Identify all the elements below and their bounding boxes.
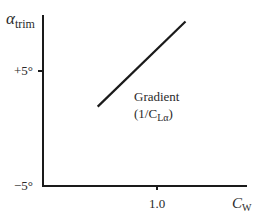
x-tick-label: 1.0 bbox=[149, 196, 165, 211]
y-axis-label: αtrim bbox=[6, 9, 36, 31]
chart-figure: +5°−5° 1.0 αtrim CW Gradient (1/CLα) bbox=[0, 0, 260, 216]
gradient-annotation: Gradient (1/CLα) bbox=[134, 89, 180, 123]
annotation-line-2: (1/CLα) bbox=[134, 106, 173, 123]
y-ticks: +5°−5° bbox=[14, 63, 43, 193]
x-axis-label: CW bbox=[232, 195, 252, 213]
y-tick-label: −5° bbox=[14, 178, 33, 193]
annotation-line-1: Gradient bbox=[134, 89, 180, 104]
y-tick-label: +5° bbox=[14, 63, 33, 78]
x-ticks: 1.0 bbox=[149, 186, 165, 211]
